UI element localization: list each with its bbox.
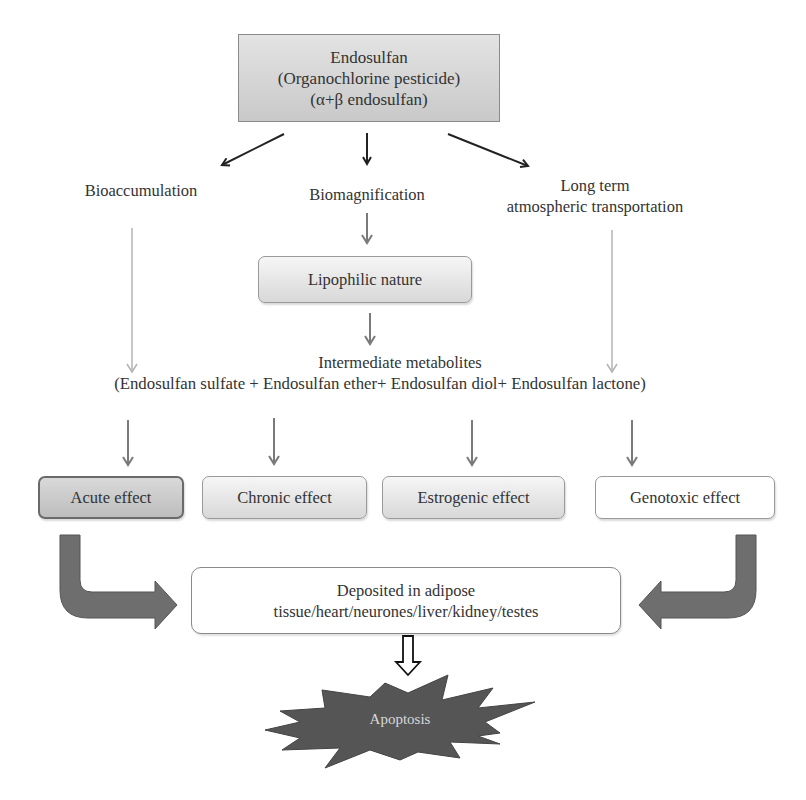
effect-chronic-label: Chronic effect	[237, 487, 332, 508]
bent-arrow-left	[60, 535, 177, 629]
lipophilic-nature-box: Lipophilic nature	[258, 256, 472, 303]
deposition-box: Deposited in adipose tissue/heart/neuron…	[191, 567, 621, 634]
metabolites-heading: Intermediate metabolites	[200, 352, 600, 373]
branch-biomagnification: Biomagnification	[282, 184, 452, 205]
effect-estrogenic: Estrogenic effect	[382, 476, 565, 519]
effect-genotoxic: Genotoxic effect	[595, 476, 775, 519]
bent-arrow-right	[639, 535, 756, 629]
source-node-endosulfan: Endosulfan (Organochlorine pesticide) (α…	[238, 34, 500, 122]
arrow-to-bioaccumulation	[222, 134, 284, 165]
hollow-arrow-to-apoptosis	[396, 636, 420, 675]
source-title: Endosulfan	[330, 47, 407, 68]
source-isomers: (α+β endosulfan)	[310, 89, 427, 110]
deposition-line2: tissue/heart/neurones/liver/kidney/teste…	[274, 601, 539, 622]
apoptosis-label: Apoptosis	[300, 711, 500, 728]
arrow-to-transportation	[448, 134, 528, 166]
branch-transportation-line1: Long term	[470, 175, 720, 196]
effect-acute: Acute effect	[38, 476, 184, 519]
metabolites-list: (Endosulfan sulfate + Endosulfan ether+ …	[0, 373, 760, 394]
source-subtitle: (Organochlorine pesticide)	[278, 68, 460, 89]
effect-acute-label: Acute effect	[71, 487, 152, 508]
effect-chronic: Chronic effect	[202, 476, 367, 519]
deposition-line1: Deposited in adipose	[337, 580, 475, 601]
effect-genotoxic-label: Genotoxic effect	[630, 487, 740, 508]
lipophilic-label: Lipophilic nature	[308, 269, 422, 290]
effect-estrogenic-label: Estrogenic effect	[418, 487, 530, 508]
branch-transportation-line2: atmospheric transportation	[470, 196, 720, 217]
branch-bioaccumulation: Bioaccumulation	[66, 180, 216, 201]
